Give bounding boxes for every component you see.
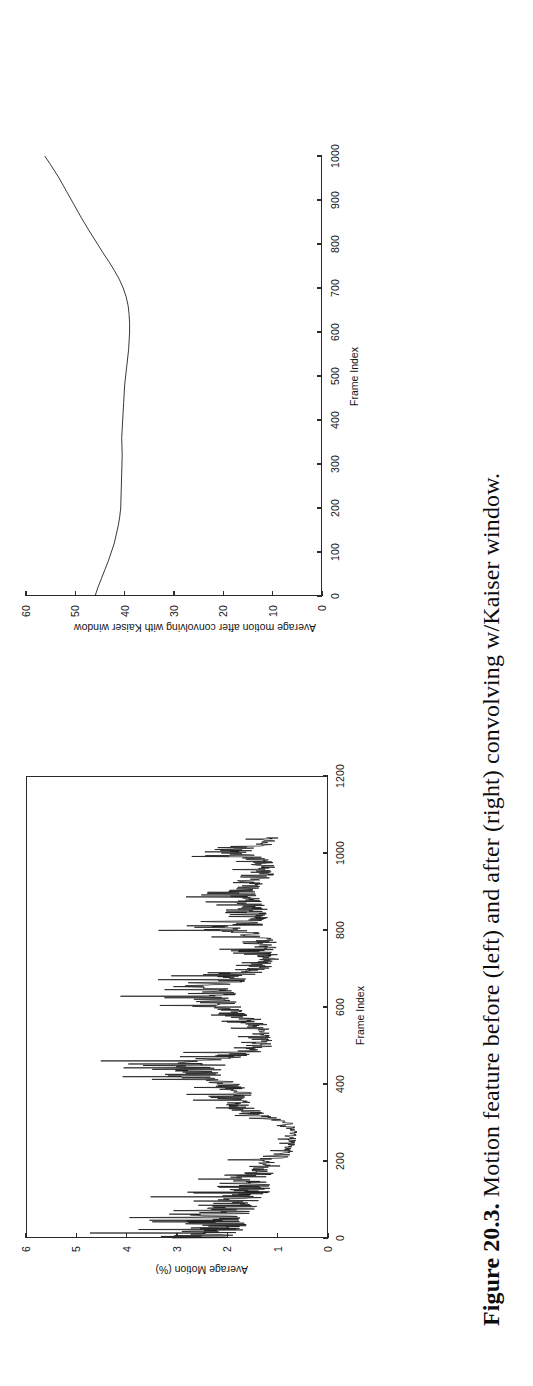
right-chart-x-tick xyxy=(317,243,322,244)
scanned-figure-page: 020040060080010001200 0123456 Frame Inde… xyxy=(0,0,533,1386)
figure-caption-label: Figure 20.3. xyxy=(478,1203,504,1326)
right-chart-y-tick-label: 10 xyxy=(267,605,279,617)
right-chart-y-tick xyxy=(321,591,322,596)
right-chart-x-tick xyxy=(317,287,322,288)
figure-caption-text: Motion feature before (left) and after (… xyxy=(478,473,504,1197)
right-chart-x-tick xyxy=(317,199,322,200)
right-chart-series-kaiser-smoothed xyxy=(45,156,130,596)
left-chart-x-tick xyxy=(323,1160,328,1161)
left-chart-y-tick-label: 2 xyxy=(221,1246,233,1252)
right-chart: 01002003004005006007008009001000 0102030… xyxy=(16,110,436,670)
right-chart-y-tick xyxy=(124,591,125,596)
right-chart-x-tick-label: 100 xyxy=(329,543,341,561)
left-chart-x-tick-label: 1200 xyxy=(334,764,346,788)
left-chart-x-tick-label: 0 xyxy=(334,1235,346,1241)
left-chart-x-tick-label: 600 xyxy=(334,998,346,1016)
left-chart-x-tick xyxy=(323,775,328,776)
right-chart-x-tick xyxy=(317,419,322,420)
right-chart-y-axis-title: Average motion after convolving with Kai… xyxy=(74,622,316,634)
right-chart-x-tick-label: 0 xyxy=(329,593,341,599)
left-chart-data-canvas xyxy=(26,776,328,1238)
left-chart-y-tick xyxy=(126,1233,127,1238)
left-chart-x-tick-label: 800 xyxy=(334,921,346,939)
right-chart-x-tick-label: 400 xyxy=(329,411,341,429)
left-chart-x-tick-label: 1000 xyxy=(334,841,346,865)
left-chart-x-tick xyxy=(323,929,328,930)
right-chart-x-tick-label: 1000 xyxy=(329,144,341,168)
right-chart-x-tick xyxy=(317,507,322,508)
right-chart-x-tick xyxy=(317,463,322,464)
left-chart-x-tick xyxy=(323,1083,328,1084)
left-chart-y-tick xyxy=(327,1233,328,1238)
left-chart: 020040060080010001200 0123456 Frame Inde… xyxy=(16,740,436,1300)
left-chart-x-tick xyxy=(323,852,328,853)
left-chart-x-axis-title: Frame Index xyxy=(354,986,366,1045)
left-chart-y-tick-label: 4 xyxy=(121,1246,133,1252)
right-chart-x-tick-label: 800 xyxy=(329,235,341,253)
right-chart-y-tick-label: 20 xyxy=(217,605,229,617)
left-chart-y-tick xyxy=(76,1233,77,1238)
left-chart-y-axis-title: Average Motion (%) xyxy=(155,1264,248,1276)
figure-caption: Figure 20.3. Motion feature before (left… xyxy=(478,56,505,1326)
right-chart-x-tick-label: 200 xyxy=(329,499,341,517)
right-chart-y-tick xyxy=(75,591,76,596)
right-chart-y-tick xyxy=(25,591,26,596)
left-chart-y-tick xyxy=(25,1233,26,1238)
left-chart-y-tick-label: 1 xyxy=(272,1246,284,1252)
right-chart-x-tick-label: 700 xyxy=(329,279,341,297)
right-chart-x-tick-label: 300 xyxy=(329,455,341,473)
left-chart-x-tick-label: 200 xyxy=(334,1152,346,1170)
right-chart-y-tick-label: 40 xyxy=(119,605,131,617)
right-chart-y-tick-label: 30 xyxy=(168,605,180,617)
left-chart-series-raw-motion xyxy=(90,838,297,1238)
right-chart-x-tick xyxy=(317,155,322,156)
left-chart-y-tick xyxy=(227,1233,228,1238)
left-chart-y-tick-label: 3 xyxy=(171,1246,183,1252)
right-chart-y-tick-label: 50 xyxy=(69,605,81,617)
right-chart-x-tick xyxy=(317,551,322,552)
left-chart-y-tick xyxy=(277,1233,278,1238)
left-chart-y-tick-label: 6 xyxy=(20,1246,32,1252)
right-chart-x-tick-label: 500 xyxy=(329,367,341,385)
right-chart-x-tick-label: 900 xyxy=(329,191,341,209)
right-chart-x-axis-title: Frame Index xyxy=(348,347,360,406)
right-chart-data-canvas xyxy=(26,156,322,596)
right-chart-x-tick xyxy=(317,331,322,332)
left-chart-x-tick-label: 400 xyxy=(334,1075,346,1093)
right-chart-y-tick xyxy=(272,591,273,596)
right-chart-y-tick-label: 0 xyxy=(316,605,328,611)
left-chart-y-tick xyxy=(176,1233,177,1238)
left-chart-x-tick xyxy=(323,1006,328,1007)
right-chart-y-tick xyxy=(223,591,224,596)
left-chart-y-tick-label: 5 xyxy=(70,1246,82,1252)
figure-area: 020040060080010001200 0123456 Frame Inde… xyxy=(0,0,533,1386)
right-chart-y-tick-label: 60 xyxy=(20,605,32,617)
right-chart-y-tick xyxy=(173,591,174,596)
right-chart-x-tick xyxy=(317,375,322,376)
right-chart-x-tick-label: 600 xyxy=(329,323,341,341)
left-chart-y-tick-label: 0 xyxy=(322,1246,334,1252)
